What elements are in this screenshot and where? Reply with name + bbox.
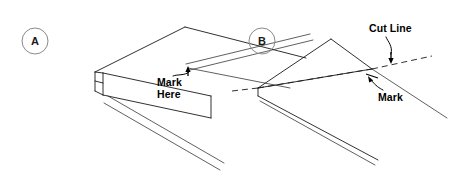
board-b-front-top-line bbox=[258, 96, 378, 160]
cut-line-tick-b-arrowhead bbox=[388, 58, 393, 64]
panel-b-geometry bbox=[232, 28, 447, 165]
callout-cut-line-label: Cut Line bbox=[369, 22, 412, 34]
molding-a-lower-strip-top bbox=[108, 96, 224, 163]
cut-line-dashed-right-extension bbox=[372, 56, 432, 69]
cut-line-dashed-left-extension bbox=[232, 88, 258, 91]
callout-mark-here: Mark Here bbox=[157, 76, 182, 100]
board-a-end-profile-groove bbox=[95, 81, 103, 83]
cut-line-leader bbox=[386, 37, 391, 54]
board-a-end-bottom-left bbox=[95, 91, 103, 95]
mark-tick-a-arrowhead bbox=[185, 66, 190, 72]
callout-mark-b: Mark bbox=[378, 91, 403, 103]
board-b-front-bottom-line bbox=[260, 101, 375, 165]
panel-b-letter: B bbox=[258, 35, 266, 47]
board-b-top-near-edge bbox=[258, 69, 372, 88]
board-a-top-far-edge-ext bbox=[185, 27, 306, 58]
panel-a-letter: A bbox=[31, 35, 39, 47]
mark-tick-b bbox=[366, 74, 378, 78]
callout-cut-line: Cut Line bbox=[369, 22, 412, 34]
callout-mark-b-label: Mark bbox=[378, 91, 403, 103]
board-b-top-right-edge bbox=[331, 39, 372, 69]
callout-mark-here-line2: Here bbox=[157, 88, 182, 100]
molding-a-lower-strip-bottom bbox=[104, 103, 220, 170]
callout-mark-here-line1: Mark bbox=[157, 76, 182, 88]
diagram-canvas: A B Mark Here Cut Line Mark bbox=[0, 0, 455, 178]
board-b-top-left-edge bbox=[258, 39, 331, 88]
board-a-end-top-edge bbox=[95, 72, 103, 73]
mark-b-leader bbox=[371, 80, 383, 90]
board-a-top-far-edge bbox=[95, 27, 185, 72]
molding-a-upper-strip-top bbox=[186, 34, 310, 64]
